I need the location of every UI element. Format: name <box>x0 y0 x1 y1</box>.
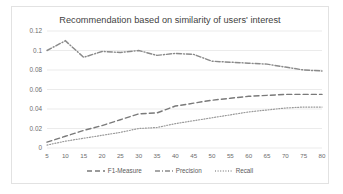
chart-container: Recommendation based on similarity of us… <box>11 6 329 184</box>
x-axis-tick-labels: 5101520253035404550556065707580 <box>45 152 326 159</box>
x-axis-tick-label: 15 <box>80 152 87 159</box>
x-axis-tick-label: 65 <box>264 152 271 159</box>
x-axis-tick-label: 75 <box>300 152 307 159</box>
x-axis-tick-label: 30 <box>135 152 142 159</box>
y-axis-tick-labels: 00.020.040.060.080.10.12 <box>30 27 43 151</box>
y-axis-tick-label: 0.04 <box>30 105 43 112</box>
legend-item-recall[interactable]: Recall <box>215 167 254 174</box>
legend-label-precision: Precision <box>176 167 202 174</box>
legend-label-recall: Recall <box>236 167 254 174</box>
dotted-line-swatch-icon <box>215 169 233 173</box>
data-series-line <box>47 41 322 71</box>
x-axis-tick-label: 5 <box>45 152 49 159</box>
legend-item-f1-measure[interactable]: F1-Measure <box>87 167 142 174</box>
chart-legend: F1-Measure Precision Recall <box>12 167 328 174</box>
y-axis-tick-label: 0.08 <box>30 66 43 73</box>
y-axis-tick-label: 0.1 <box>33 47 42 54</box>
x-axis-tick-label: 45 <box>190 152 197 159</box>
x-axis-tick-label: 25 <box>117 152 124 159</box>
dashed-line-swatch-icon <box>87 169 105 173</box>
y-axis-tick-label: 0.12 <box>30 27 43 34</box>
x-axis-tick-label: 60 <box>245 152 252 159</box>
y-axis-tick-label: 0.06 <box>30 86 43 93</box>
x-axis-tick-label: 20 <box>99 152 106 159</box>
x-axis-tick-label: 80 <box>319 152 326 159</box>
legend-label-f1-measure: F1-Measure <box>108 167 142 174</box>
dash-dot-line-swatch-icon <box>155 169 173 173</box>
x-axis-tick-label: 70 <box>282 152 289 159</box>
x-axis-tick-label: 40 <box>172 152 179 159</box>
chart-plot-area: 00.020.040.060.080.10.12 510152025303540… <box>12 7 330 185</box>
y-axis-tick-label: 0 <box>38 144 42 151</box>
x-axis-tick-label: 35 <box>154 152 161 159</box>
y-axis-tick-label: 0.02 <box>30 125 43 132</box>
data-series-line <box>47 107 322 145</box>
legend-item-precision[interactable]: Precision <box>155 167 202 174</box>
data-series-line <box>47 94 322 142</box>
x-axis-tick-label: 50 <box>209 152 216 159</box>
gridlines-group <box>47 31 322 148</box>
x-axis-tick-label: 10 <box>62 152 69 159</box>
x-axis-tick-label: 55 <box>227 152 234 159</box>
data-series-group <box>47 41 322 145</box>
